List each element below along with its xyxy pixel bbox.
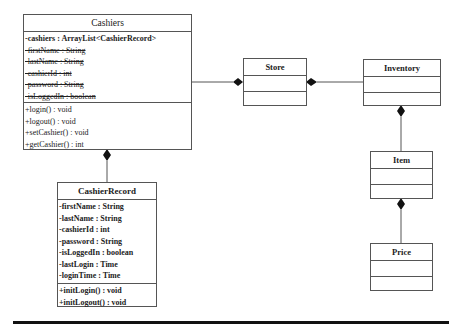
attribute: -lastLogin : Time	[58, 259, 156, 271]
composition-diamond-icon	[103, 149, 111, 161]
composition-diamond-icon	[306, 78, 317, 86]
class-name: Store	[244, 59, 306, 76]
class-cashiers: Cashiers -cashiers : ArrayList<CashierRe…	[23, 14, 192, 150]
composition-diamond-icon	[397, 105, 405, 117]
class-inventory: Inventory	[363, 59, 441, 106]
method: +initLogout() : void	[58, 297, 156, 309]
class-item: Item	[370, 151, 433, 199]
attribute: -password : String	[24, 79, 191, 91]
methods-section	[244, 91, 306, 105]
attributes-section: -cashiers : ArrayList<CashierRecord> -fi…	[24, 32, 191, 102]
methods-section	[364, 92, 440, 105]
composition-diamond-icon	[397, 198, 405, 210]
attribute: -isLoggedIn : boolean	[24, 91, 191, 103]
method: +logout() : void	[24, 116, 191, 128]
method: +login() : void	[24, 104, 191, 116]
method: +initLogin() : void	[58, 285, 156, 297]
methods-section	[371, 184, 432, 198]
methods-section: +login() : void +logout() : void +setCas…	[24, 102, 191, 150]
attributes-section	[371, 169, 432, 184]
attributes-section	[364, 77, 440, 92]
class-store: Store	[243, 58, 307, 106]
attributes-section: -firstName : String -lastName : String -…	[58, 200, 156, 283]
methods-section	[371, 276, 432, 290]
class-name: CashierRecord	[58, 183, 156, 200]
bottom-rule-divider	[13, 321, 449, 324]
class-name: Item	[371, 152, 432, 169]
attribute: -cashierId : int	[58, 224, 156, 236]
class-price: Price	[370, 243, 433, 291]
composition-diamond-icon	[233, 78, 243, 86]
class-name: Cashiers	[24, 15, 191, 32]
attribute: -lastName : String	[24, 56, 191, 68]
class-name: Price	[371, 244, 432, 261]
methods-section: +initLogin() : void +initLogout() : void	[58, 283, 156, 308]
method: +setCashier() : void	[24, 127, 191, 139]
attribute: -firstName : String	[24, 45, 191, 57]
attribute: -password : String	[58, 236, 156, 248]
class-name: Inventory	[364, 60, 440, 77]
attribute: -firstName : String	[58, 201, 156, 213]
attribute: -isLoggedIn : boolean	[58, 247, 156, 259]
attribute: -loginTime : Time	[58, 270, 156, 282]
attributes-section	[371, 261, 432, 276]
method: +getCashier() : int	[24, 139, 191, 151]
attribute: -cashierId : int	[24, 68, 191, 80]
attribute: -cashiers : ArrayList<CashierRecord>	[24, 33, 191, 45]
attributes-section	[244, 76, 306, 91]
attribute: -lastName : String	[58, 213, 156, 225]
class-cashier-record: CashierRecord -firstName : String -lastN…	[57, 182, 157, 307]
